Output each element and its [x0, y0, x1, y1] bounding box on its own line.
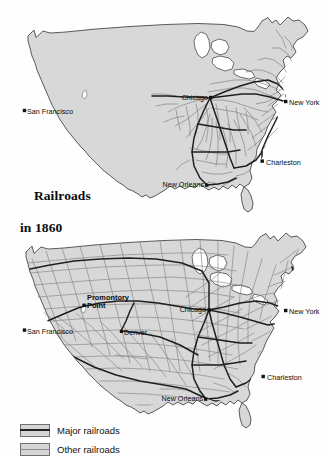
city-marker-denver: Denver	[120, 328, 148, 337]
city-label-chicago: Chicago	[182, 93, 208, 102]
city-label-chicago: Chicago	[180, 305, 206, 314]
legend-swatch-major-railroads-icon	[20, 424, 50, 437]
map-panel-1890: San Francisco Denver Chicago New York Ch…	[0, 229, 330, 429]
legend-label-major-railroads: Major railroads	[57, 425, 120, 436]
city-label-new-orleans: New Orleans	[161, 394, 203, 403]
city-marker-new-orleans: New Orleans	[162, 180, 208, 189]
city-marker-charleston: Charleston	[261, 158, 301, 167]
legend-item-major-railroads: Major railroads	[20, 422, 220, 438]
city-marker-san-francisco: San Francisco	[23, 327, 73, 336]
place-label-promontory-point-line2: Point	[87, 301, 106, 310]
city-label-san-francisco: San Francisco	[27, 107, 73, 116]
city-marker-charleston: Charleston	[262, 373, 302, 382]
city-label-charleston: Charleston	[266, 158, 301, 167]
city-label-san-francisco: San Francisco	[27, 327, 73, 336]
map-title-1860-line1: Railroads	[34, 188, 91, 203]
city-label-new-york: New York	[289, 307, 320, 316]
legend-swatch-other-railroads-icon	[20, 443, 50, 456]
city-label-charleston: Charleston	[267, 373, 302, 382]
city-label-denver: Denver	[124, 328, 148, 337]
city-marker-san-francisco: San Francisco	[23, 107, 73, 116]
map-legend: Major railroads Other railroads	[20, 422, 220, 459]
legend-label-other-railroads: Other railroads	[57, 444, 120, 455]
city-marker-new-york: New York	[284, 307, 320, 316]
map-panel-1860: San Francisco Chicago New York Charlesto…	[0, 0, 330, 230]
city-label-new-york: New York	[289, 98, 320, 107]
city-marker-new-york: New York	[284, 98, 320, 107]
city-label-new-orleans: New Orleans	[162, 180, 204, 189]
legend-item-other-railroads: Other railroads	[20, 441, 220, 457]
city-marker-new-orleans: New Orleans	[161, 394, 207, 403]
map-1890-graphic: San Francisco Denver Chicago New York Ch…	[0, 229, 330, 429]
city-marker-chicago: Chicago	[182, 93, 213, 102]
